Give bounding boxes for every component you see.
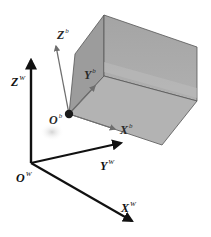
body-y-label: Yb [84, 66, 96, 81]
world-origin-label: OW [16, 169, 32, 184]
body-origin-dot [65, 110, 73, 118]
coordinate-frame-diagram [0, 0, 211, 237]
world-y-label: YW [100, 157, 114, 172]
body-x-label: Xb [120, 121, 133, 136]
body-z-axis [56, 46, 69, 114]
body-origin-label: Ob [49, 111, 62, 126]
world-x-axis [31, 163, 132, 221]
world-x-label: XW [121, 199, 136, 214]
body-z-label: Zb [57, 26, 69, 41]
world-z-label: ZW [11, 73, 25, 88]
